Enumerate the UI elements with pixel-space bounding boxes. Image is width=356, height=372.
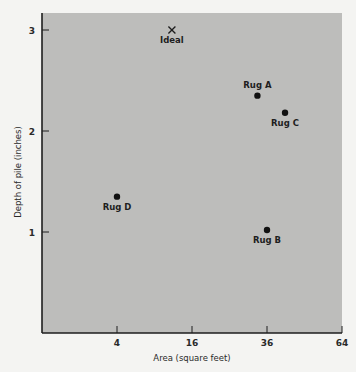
point-rug-a <box>254 92 260 98</box>
x-tick-label: 36 <box>261 338 274 348</box>
point-label-rug-a: Rug A <box>243 80 272 90</box>
point-label-rug-c: Rug C <box>271 118 299 128</box>
point-label-rug-b: Rug B <box>253 235 281 245</box>
y-tick-label: 1 <box>29 228 35 238</box>
point-label-rug-d: Rug D <box>103 202 132 212</box>
y-tick-label: 3 <box>29 26 35 36</box>
y-axis-label: Depth of pile (inches) <box>13 126 23 218</box>
x-tick-label: 64 <box>336 338 349 348</box>
y-tick-label: 2 <box>29 127 35 137</box>
x-tick-label: 16 <box>186 338 199 348</box>
point-label-ideal: Ideal <box>160 35 184 45</box>
point-rug-c <box>282 110 288 116</box>
scatter-chart: 4163664123 IdealRug ARug CRug DRug B Are… <box>0 0 356 372</box>
x-tick-label: 4 <box>114 338 120 348</box>
point-rug-b <box>264 227 270 233</box>
point-rug-d <box>114 193 120 199</box>
x-axis-label: Area (square feet) <box>153 353 230 363</box>
plot-area <box>42 13 342 333</box>
